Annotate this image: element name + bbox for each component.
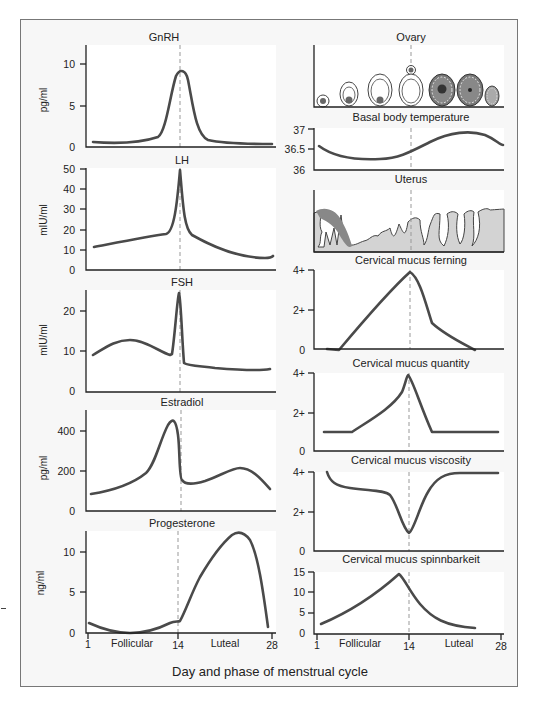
x-tick: 28 (266, 639, 278, 651)
y-tick: 0 (69, 627, 75, 639)
panel-uterus: Uterus (314, 173, 504, 252)
y-tick: 0 (69, 264, 75, 276)
mature-corpus-luteum-icon (457, 74, 483, 106)
x-tick: 1 (85, 638, 91, 650)
panel-cervical-mucus-ferning: Cervical mucus ferning 0 2+ 4+ (293, 254, 504, 356)
panel-cervical-mucus-viscosity: Cervical mucus viscosity 0 2+ 4+ (293, 454, 504, 557)
y-tick: 10 (293, 586, 305, 598)
y-tick: 0 (299, 344, 305, 356)
panel-title: Cervical mucus quantity (353, 357, 470, 369)
y-tick: 0 (69, 141, 75, 153)
y-tick: 0 (299, 545, 305, 557)
y-tick: 200 (57, 465, 75, 477)
panel-title: Cervical mucus spinnbarkeit (342, 553, 480, 565)
panel-ovary: Ovary (314, 31, 504, 107)
panel-title: LH (175, 154, 189, 166)
x-tick: 14 (403, 640, 415, 652)
y-tick: 4+ (293, 466, 305, 478)
y-tick: 400 (57, 425, 75, 437)
panel-title: Progesterone (149, 517, 215, 529)
y-tick: 36.5 (285, 143, 306, 155)
released-oocyte-icon (407, 66, 416, 75)
y-tick: 2+ (293, 407, 305, 419)
y-axis-label: mIU/ml (38, 324, 49, 356)
y-tick: 10 (63, 546, 75, 558)
y-axis-label: pg/ml (38, 456, 49, 480)
panel-cervical-mucus-spinnbarkeit: Cervical mucus spinnbarkeit 0 5 10 15 1 … (293, 553, 507, 652)
follicle-primary-icon (340, 82, 358, 106)
follicle-primordial-icon (317, 95, 329, 107)
y-axis-label: ng/ml (35, 571, 46, 595)
follicle-antral-icon (368, 74, 392, 106)
y-tick: 20 (63, 224, 75, 236)
panel-basal-body-temperature: Basal body temperature 36 36.5 37 (285, 111, 504, 176)
y-tick: 5 (69, 100, 75, 112)
y-tick: 0 (299, 445, 305, 457)
panel-cervical-mucus-quantity: Cervical mucus quantity 0 2+ 4+ (293, 357, 504, 457)
x-tick: 1 (314, 639, 320, 651)
panel-title: FSH (171, 276, 193, 288)
panel-title: Basal body temperature (353, 111, 470, 123)
phase-label-follicular: Follicular (339, 637, 382, 649)
panel-title: GnRH (149, 31, 180, 43)
y-tick: 5 (69, 586, 75, 598)
y-tick: 2+ (293, 506, 305, 518)
panel-title: Cervical mucus ferning (355, 254, 467, 266)
panel-gnrh: GnRH pg/ml 0 5 10 (38, 31, 276, 153)
phase-label-luteal: Luteal (211, 637, 240, 649)
panel-title: Cervical mucus viscosity (351, 454, 471, 466)
y-tick: 37 (293, 124, 305, 136)
corpus-albicans-icon (485, 86, 499, 106)
y-tick: 4+ (293, 264, 305, 276)
y-tick: 10 (63, 345, 75, 357)
panel-fsh: FSH mIU/ml 0 10 20 (38, 276, 276, 397)
y-tick: 20 (63, 305, 75, 317)
y-tick: 30 (63, 203, 75, 215)
y-tick: 2+ (293, 304, 305, 316)
y-tick: 15 (293, 566, 305, 578)
menstrual-cycle-figure: GnRH pg/ml 0 5 10 LH mIU/ml 0 10 20 30 4… (0, 0, 539, 710)
y-tick: 0 (69, 385, 75, 397)
x-axis-label: Day and phase of menstrual cycle (172, 664, 368, 679)
panel-estradiol: Estradiol pg/ml 0 200 400 (38, 396, 276, 517)
y-tick: 10 (63, 58, 75, 70)
panel-title: Estradiol (161, 396, 204, 408)
panel-lh: LH mIU/ml 0 10 20 30 40 50 (38, 154, 276, 276)
corpus-luteum-icon (429, 74, 455, 106)
y-tick: 36 (293, 164, 305, 176)
panel-progesterone: Progesterone ng/ml 0 5 10 1 14 28 Follic… (35, 517, 278, 651)
x-tick: 14 (172, 639, 184, 651)
y-tick: 0 (69, 505, 75, 517)
panel-title: Uterus (395, 173, 428, 185)
phase-label-follicular: Follicular (111, 637, 154, 649)
y-tick: 10 (63, 244, 75, 256)
phase-label-luteal: Luteal (445, 637, 474, 649)
ruptured-follicle-icon (399, 74, 423, 106)
y-tick: 4+ (293, 367, 305, 379)
y-axis-label: mIU/ml (38, 204, 49, 236)
y-tick: 50 (63, 163, 75, 175)
panel-title: Ovary (396, 31, 426, 43)
x-tick: 28 (495, 640, 507, 652)
y-axis-label: pg/ml (38, 88, 49, 112)
y-tick: 0 (299, 627, 305, 639)
y-tick: 5 (299, 606, 305, 618)
y-tick: 40 (63, 183, 75, 195)
